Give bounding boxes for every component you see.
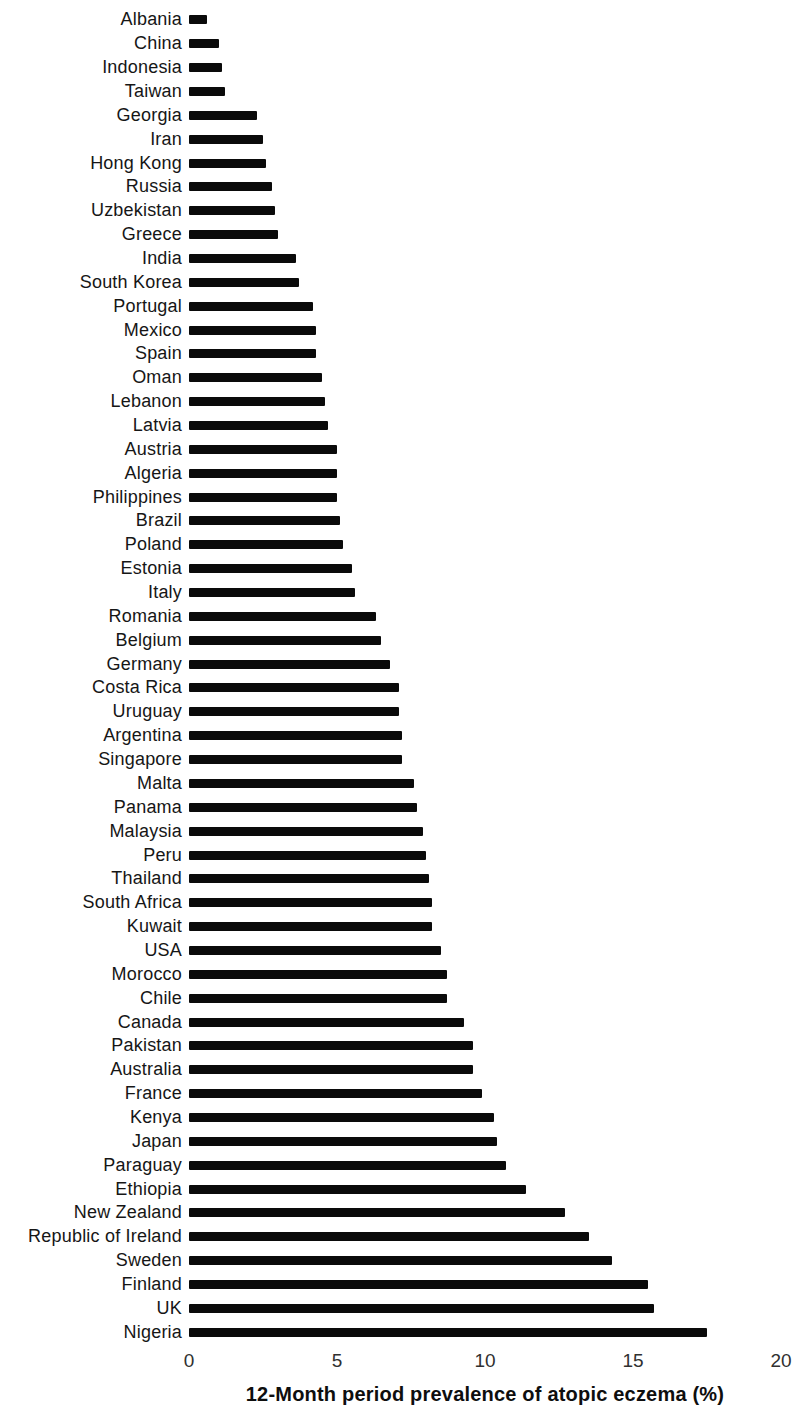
bar-row: Algeria xyxy=(0,461,707,485)
bar-row: Estonia xyxy=(0,557,707,581)
x-tick-label: 0 xyxy=(184,1350,195,1372)
bar-row: Peru xyxy=(0,843,707,867)
category-label: Peru xyxy=(0,845,189,866)
x-axis-title: 12-Month period prevalence of atopic ecz… xyxy=(189,1383,781,1406)
category-label: Finland xyxy=(0,1274,189,1295)
bar-row: Taiwan xyxy=(0,80,707,104)
category-label: Uruguay xyxy=(0,701,189,722)
bar xyxy=(189,970,447,979)
bar-row: South Africa xyxy=(0,891,707,915)
bar xyxy=(189,1232,589,1241)
bar-row: Pakistan xyxy=(0,1034,707,1058)
bar-row: Kuwait xyxy=(0,915,707,939)
bar-row: Japan xyxy=(0,1129,707,1153)
bar xyxy=(189,827,423,836)
bar-row: South Korea xyxy=(0,270,707,294)
category-label: Kuwait xyxy=(0,916,189,937)
bar xyxy=(189,182,272,191)
category-label: South Africa xyxy=(0,892,189,913)
bar-row: Ethiopia xyxy=(0,1177,707,1201)
bar xyxy=(189,731,402,740)
bar xyxy=(189,302,313,311)
category-label: Paraguay xyxy=(0,1155,189,1176)
bar xyxy=(189,87,225,96)
bar xyxy=(189,373,322,382)
bar-row: Sweden xyxy=(0,1249,707,1273)
bar xyxy=(189,493,337,502)
category-label: Kenya xyxy=(0,1107,189,1128)
category-label: Ethiopia xyxy=(0,1179,189,1200)
bar-row: Oman xyxy=(0,366,707,390)
bar-row: Finland xyxy=(0,1273,707,1297)
bar xyxy=(189,1280,648,1289)
bar xyxy=(189,278,299,287)
bar-row: India xyxy=(0,247,707,271)
bar xyxy=(189,111,257,120)
bar-row: Greece xyxy=(0,223,707,247)
bar-row: Uzbekistan xyxy=(0,199,707,223)
category-label: Spain xyxy=(0,343,189,364)
category-label: Philippines xyxy=(0,487,189,508)
category-label: Panama xyxy=(0,797,189,818)
x-tick-label: 20 xyxy=(770,1350,791,1372)
category-label: Canada xyxy=(0,1012,189,1033)
category-label: Uzbekistan xyxy=(0,200,189,221)
bar-row: Philippines xyxy=(0,485,707,509)
category-label: Portugal xyxy=(0,296,189,317)
bar-row: Brazil xyxy=(0,509,707,533)
category-label: Brazil xyxy=(0,510,189,531)
bar-row: New Zealand xyxy=(0,1201,707,1225)
category-label: Australia xyxy=(0,1059,189,1080)
bar xyxy=(189,15,207,24)
bar xyxy=(189,946,441,955)
category-label: Costa Rica xyxy=(0,677,189,698)
category-label: Argentina xyxy=(0,725,189,746)
category-label: New Zealand xyxy=(0,1202,189,1223)
bar xyxy=(189,683,399,692)
bar-row: Spain xyxy=(0,342,707,366)
bar-row: Belgium xyxy=(0,628,707,652)
bar-row: Russia xyxy=(0,175,707,199)
bar xyxy=(189,1304,654,1313)
category-label: Germany xyxy=(0,654,189,675)
bar xyxy=(189,1161,506,1170)
category-label: Greece xyxy=(0,224,189,245)
bar xyxy=(189,1256,612,1265)
bar xyxy=(189,588,355,597)
bar xyxy=(189,1113,494,1122)
bar xyxy=(189,326,316,335)
bar xyxy=(189,39,219,48)
bar xyxy=(189,1041,473,1050)
category-label: Japan xyxy=(0,1131,189,1152)
bar-row: Austria xyxy=(0,437,707,461)
bar-row: Indonesia xyxy=(0,56,707,80)
category-label: India xyxy=(0,248,189,269)
bar-rows: Albania China Indonesia Taiwan Georgia I… xyxy=(0,8,707,1344)
bar xyxy=(189,636,381,645)
bar xyxy=(189,851,426,860)
category-label: Iran xyxy=(0,129,189,150)
x-tick-label: 10 xyxy=(474,1350,495,1372)
x-tick-label: 5 xyxy=(332,1350,343,1372)
bar xyxy=(189,159,266,168)
bar xyxy=(189,1018,464,1027)
bar xyxy=(189,254,296,263)
bar-row: USA xyxy=(0,939,707,963)
bar xyxy=(189,421,328,430)
category-label: Chile xyxy=(0,988,189,1009)
bar xyxy=(189,612,376,621)
bar-row: UK xyxy=(0,1296,707,1320)
bar-row: France xyxy=(0,1082,707,1106)
bar-row: Malta xyxy=(0,772,707,796)
bar xyxy=(189,755,402,764)
category-label: Sweden xyxy=(0,1250,189,1271)
bar xyxy=(189,516,340,525)
bar xyxy=(189,660,390,669)
category-label: Republic of Ireland xyxy=(0,1226,189,1247)
category-label: Russia xyxy=(0,176,189,197)
bar-row: Romania xyxy=(0,604,707,628)
bar xyxy=(189,135,263,144)
category-label: Thailand xyxy=(0,868,189,889)
bar xyxy=(189,230,278,239)
bar xyxy=(189,564,352,573)
